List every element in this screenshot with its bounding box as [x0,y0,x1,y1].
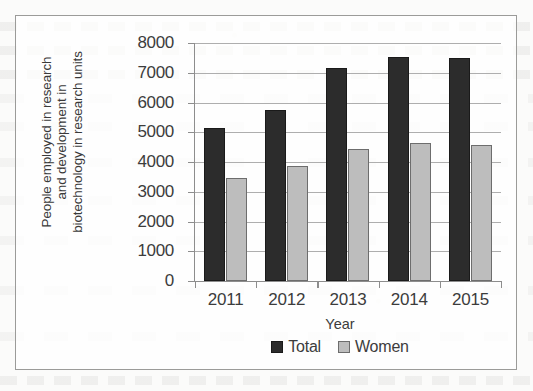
y-axis-tick-mark [188,103,195,104]
y-axis-tick-mark [188,43,195,44]
legend-entry-total[interactable]: Total [271,338,321,356]
x-axis-tick-mark [317,281,318,288]
y-axis-tick-mark [188,251,195,252]
y-axis-tick-label: 8000 [112,33,174,53]
y-axis-tick-label: 3000 [112,182,174,202]
x-axis-tick-mark [256,281,257,288]
y-axis-tick-mark [188,192,195,193]
bar-women-2014[interactable] [410,143,431,281]
x-axis-tick-label-2012: 2012 [268,290,305,310]
x-axis-title: Year [179,316,501,332]
bar-group [440,43,501,281]
bar-group [317,43,378,281]
y-axis-title-line-3: biotechnology in research units [69,51,84,233]
bar-total-2015[interactable] [449,58,470,281]
y-axis-tick-mark [188,162,195,163]
y-axis-tick-label: 0 [112,271,174,291]
y-axis-tick-labels: 010002000300040005000600070008000 [112,43,174,281]
bar-women-2013[interactable] [348,149,369,281]
bar-total-2011[interactable] [204,128,225,281]
bar-group [379,43,440,281]
x-axis-tick-label-2011: 2011 [208,290,244,310]
x-axis-tick-label-2014: 2014 [391,290,428,310]
legend-swatch-total-icon [271,341,283,353]
bar-total-2013[interactable] [326,68,347,281]
bar-total-2014[interactable] [388,57,409,281]
legend-label: Women [355,338,409,356]
chart-legend: TotalWomen [179,338,501,356]
plot-area [179,43,501,281]
y-axis-title-line-2: and development in [54,84,69,199]
bar-group [256,43,317,281]
x-axis-tick-mark [501,281,502,288]
y-axis-title-line-1: People employed in research [39,57,54,228]
bar-women-2012[interactable] [287,166,308,281]
x-axis-tick-mark [440,281,441,288]
x-axis-tick-label-2015: 2015 [452,290,489,310]
y-axis-title: People employed in research and developm… [31,25,93,260]
x-axis-tick-mark [195,281,196,288]
x-axis-tick-marks [179,281,501,288]
y-axis-tick-label: 2000 [112,212,174,232]
page-ghost-text-line [0,376,533,385]
y-axis-tick-label: 4000 [112,152,174,172]
y-axis-tick-mark [188,73,195,74]
legend-entry-women[interactable]: Women [338,338,409,356]
x-axis-tick-label-2013: 2013 [329,290,366,310]
bar-total-2012[interactable] [265,110,286,281]
y-axis-tick-label: 1000 [112,241,174,261]
x-axis-tick-labels: 20112012201320142015 [179,290,501,316]
bars-layer [195,43,501,281]
chart-figure: People employed in research and developm… [15,15,517,370]
bar-group [195,43,256,281]
y-axis-tick-label: 6000 [112,93,174,113]
legend-swatch-women-icon [338,341,350,353]
x-axis-tick-mark [379,281,380,288]
bar-women-2015[interactable] [471,145,492,281]
y-axis-tick-label: 5000 [112,122,174,142]
y-axis-tick-label: 7000 [112,63,174,83]
legend-label: Total [288,338,321,356]
bar-women-2011[interactable] [226,178,247,281]
y-axis-tick-mark [188,222,195,223]
y-axis-tick-mark [188,132,195,133]
